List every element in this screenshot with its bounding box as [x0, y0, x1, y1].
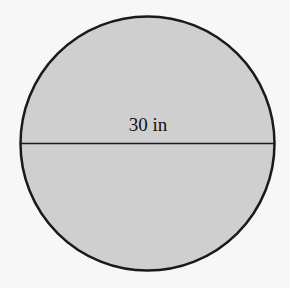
- circle-figure: [0, 0, 290, 288]
- circle-diagram: 30 in: [0, 0, 290, 288]
- diameter-label: 30 in: [0, 114, 290, 136]
